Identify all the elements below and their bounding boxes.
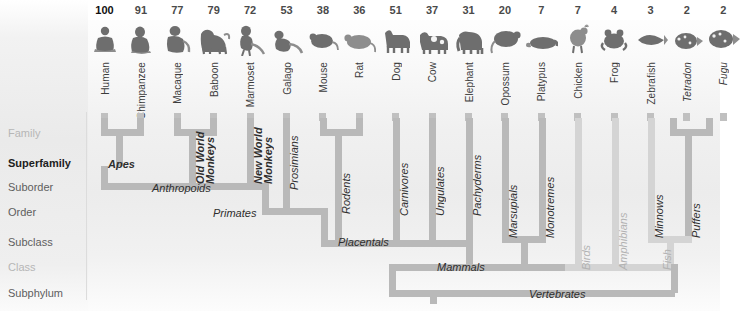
- clade-label-primates: Primates: [213, 207, 256, 219]
- species-count-dog: 51: [381, 4, 411, 16]
- species-count-macaque: 77: [162, 4, 192, 16]
- species-label-rat: Rat: [353, 62, 366, 110]
- species-label-human: Human: [99, 62, 112, 110]
- species-count-chicken: 7: [563, 4, 593, 16]
- species-label-text: Opossum: [499, 62, 512, 106]
- species-label-baboon: Baboon: [208, 62, 221, 110]
- zebrafish-icon: [634, 22, 668, 56]
- species-label-zebrafish: Zebrafish: [645, 62, 658, 110]
- rank-label-subclass: Subclass: [8, 236, 53, 248]
- clade-label-vertebrates: Vertebrates: [529, 288, 585, 300]
- species-label-frog: Frog: [608, 62, 621, 110]
- marmoset-icon: [233, 22, 267, 56]
- clade-label-anthropoids: Anthropoids: [152, 182, 211, 194]
- clade-label-ungulates: Ungulates: [435, 150, 446, 216]
- elephant-icon: [452, 22, 486, 56]
- stem-apes-to-anthropoids: [101, 166, 108, 184]
- species-label-opossum: Opossum: [499, 62, 512, 110]
- rank-label-superfamily: Superfamily: [8, 157, 71, 169]
- dog-icon: [379, 22, 413, 56]
- fugu-icon: [706, 22, 740, 56]
- species-label-platypus: Platypus: [535, 62, 548, 110]
- clade-label-mammals: Mammals: [437, 261, 485, 273]
- species-count-human: 100: [90, 4, 120, 16]
- species-label-chimpanzee: Chimpanzee: [135, 62, 148, 110]
- species-count-elephant: 31: [454, 4, 484, 16]
- species-label-dog: Dog: [390, 62, 403, 110]
- species-label-text: Rat: [353, 62, 366, 78]
- species-label-macaque: Macaque: [171, 62, 184, 110]
- species-count-chimpanzee: 91: [126, 4, 156, 16]
- opossum-icon: [488, 22, 522, 56]
- rank-label-family: Family: [8, 127, 40, 139]
- species-count-marmoset: 72: [235, 4, 265, 16]
- species-label-text: Tetradon: [681, 62, 694, 102]
- species-label-text: Chicken: [572, 62, 585, 99]
- species-label-text: Frog: [608, 62, 621, 83]
- platypus-icon: [524, 22, 558, 56]
- species-count-cow: 37: [417, 4, 447, 16]
- species-count-fugu: 2: [708, 4, 738, 16]
- clade-label-monotremes: Monotremes: [545, 164, 556, 238]
- species-label-text: Mouse: [317, 62, 330, 93]
- species-count-baboon: 79: [199, 4, 229, 16]
- rank-label-order: Order: [8, 206, 36, 218]
- stem-primates: [321, 208, 328, 244]
- species-count-frog: 4: [599, 4, 629, 16]
- human-icon: [88, 22, 122, 56]
- species-label-text: Chimpanzee: [135, 62, 148, 119]
- mouse-icon: [306, 22, 340, 56]
- species-count-platypus: 7: [526, 4, 556, 16]
- species-label-marmoset: Marmoset: [244, 62, 257, 110]
- macaque-icon: [160, 22, 194, 56]
- clade-label-apes: Apes: [108, 158, 135, 170]
- species-label-text: Baboon: [208, 62, 221, 97]
- species-label-text: Macaque: [171, 62, 184, 104]
- baboon-icon: [197, 22, 231, 56]
- species-label-fugu: Fugu: [717, 62, 730, 110]
- clade-bar-primates: [262, 208, 328, 215]
- species-label-text: Dog: [390, 62, 403, 81]
- rank-label-subphylum: Subphylum: [8, 287, 63, 299]
- species-label-cow: Cow: [426, 62, 439, 110]
- clade-label-marsupials: Marsupials: [508, 168, 519, 238]
- species-count-tetradon: 2: [672, 4, 702, 16]
- clade-label-new-world-monkeys-line2: Monkeys: [263, 124, 274, 184]
- species-count-mouse: 38: [308, 4, 338, 16]
- clade-label-carnivores: Carnivores: [399, 148, 410, 216]
- clade-label-amphibians: Amphibians: [618, 204, 629, 270]
- rank-label-class: Class: [8, 261, 36, 273]
- tip-stub-fugu: [720, 113, 727, 121]
- tetradon-icon: [670, 22, 704, 56]
- species-label-text: Human: [99, 62, 112, 95]
- species-count-galago: 53: [272, 4, 302, 16]
- clade-label-minnows: Minnows: [654, 172, 665, 238]
- rank-label-suborder: Suborder: [8, 181, 53, 193]
- root-stem: [430, 290, 437, 304]
- clade-label-pachyderms: Pachyderms: [472, 146, 483, 216]
- chimpanzee-icon: [124, 22, 158, 56]
- species-label-text: Elephant: [463, 62, 476, 102]
- clade-label-fish: Fish: [662, 240, 673, 270]
- clade-label-puffers: Puffers: [691, 176, 702, 238]
- species-label-mouse: Mouse: [317, 62, 330, 110]
- species-count-opossum: 20: [490, 4, 520, 16]
- species-label-text: Cow: [426, 62, 439, 82]
- species-label-chicken: Chicken: [572, 62, 585, 110]
- species-count-rat: 36: [344, 4, 374, 16]
- rat-icon: [342, 22, 376, 56]
- species-label-tetradon: Tetradon: [681, 62, 694, 110]
- species-label-text: Zebrafish: [645, 62, 658, 105]
- column-divider: [86, 112, 87, 300]
- clade-label-rodents: Rodents: [341, 152, 352, 214]
- clade-label-placentals: Placentals: [338, 236, 389, 248]
- species-label-elephant: Elephant: [463, 62, 476, 110]
- species-label-text: Marmoset: [244, 62, 257, 107]
- cow-icon: [415, 22, 449, 56]
- clade-label-birds: Birds: [581, 230, 592, 270]
- galago-icon: [270, 22, 304, 56]
- species-label-text: Platypus: [535, 62, 548, 101]
- tip-stub-tetradon: [683, 113, 690, 121]
- chicken-icon: [561, 22, 595, 56]
- clade-label-old-world-monkeys-line2: Monkeys: [205, 124, 216, 184]
